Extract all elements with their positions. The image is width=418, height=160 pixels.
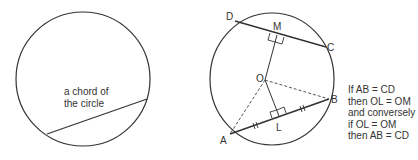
- note-line-5: then AB = CD: [348, 130, 415, 142]
- label-m: M: [273, 21, 281, 32]
- label-a: A: [220, 135, 227, 146]
- left-diagram: a chord of the circle: [16, 12, 150, 146]
- right-circle: [210, 13, 334, 145]
- right-angle-mark-l-left: [270, 110, 277, 118]
- theorem-note: If AB = CD then OL = OM and conversely i…: [348, 84, 415, 142]
- note-line-3: and conversely: [348, 107, 415, 119]
- note-line-1: If AB = CD: [348, 84, 415, 96]
- chord-caption-line1: a chord of: [64, 86, 109, 97]
- chord-caption-line2: the circle: [64, 98, 104, 109]
- note-line-4: if OL = OM: [348, 119, 415, 131]
- label-b: B: [331, 94, 338, 105]
- right-diagram: D M C O B L A: [210, 11, 338, 146]
- right-angle-mark-m-left: [268, 33, 275, 42]
- label-d: D: [226, 11, 233, 22]
- label-c: C: [327, 42, 334, 53]
- label-o: O: [256, 73, 264, 84]
- label-l: L: [276, 122, 282, 133]
- dashed-ob: [265, 80, 329, 99]
- segment-ol: [265, 80, 279, 116]
- right-angle-mark-l-right: [277, 107, 286, 113]
- note-line-2: then OL = OM: [348, 96, 415, 108]
- left-circle: [16, 12, 150, 146]
- dashed-oa: [230, 80, 265, 134]
